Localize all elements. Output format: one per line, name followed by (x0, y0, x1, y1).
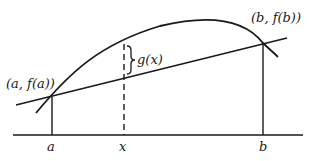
label-gap-g: g(x) (137, 52, 163, 67)
secant-line (16, 38, 287, 105)
diagram-canvas: (a, f(a)) (b, f(b)) g(x) a x b (0, 0, 309, 161)
label-axis-a: a (47, 139, 55, 154)
label-axis-x: x (119, 139, 127, 154)
label-axis-b: b (259, 139, 267, 154)
mean-value-diagram: (a, f(a)) (b, f(b)) g(x) a x b (0, 0, 309, 161)
label-point-b: (b, f(b)) (251, 10, 301, 25)
label-point-a: (a, f(a)) (6, 76, 55, 91)
brace-g (127, 46, 135, 74)
